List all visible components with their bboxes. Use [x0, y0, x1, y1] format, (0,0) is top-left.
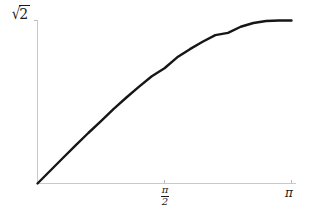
data-curve	[38, 21, 292, 184]
radical-group: √2	[11, 5, 30, 22]
x-axis-mid-label: π 2	[157, 185, 173, 207]
fraction-denominator: 2	[161, 197, 170, 207]
fraction-group: π 2	[161, 185, 170, 207]
plot-canvas	[0, 0, 311, 213]
radicand-value: 2	[19, 5, 30, 21]
x-axis-max-label: π	[285, 187, 293, 199]
fraction-numerator: π	[161, 185, 170, 195]
y-axis-max-label: √2	[11, 5, 30, 22]
radical-sign-icon: √	[12, 6, 21, 22]
chart-figure: √2 π 2 π	[0, 0, 311, 213]
